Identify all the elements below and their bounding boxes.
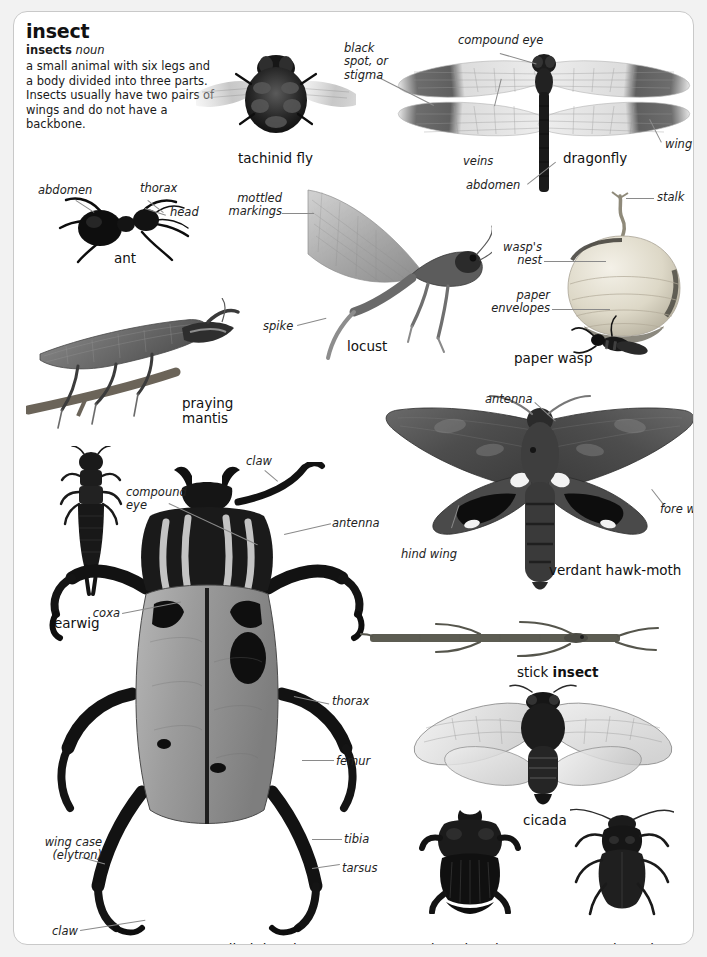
label-beetle-claw-bottom: claw: [52, 925, 78, 938]
caption-cockroach: cockroach: [590, 942, 659, 945]
definition-text: a small animal with six legs and a body …: [26, 59, 216, 132]
label-dragonfly-black-spot: black spot, or stigma: [344, 42, 388, 82]
label-moth-antenna: antenna: [485, 393, 533, 406]
label-dragonfly-wing: wing: [665, 138, 692, 151]
leader-line: [282, 213, 314, 214]
label-dragonfly-veins: veins: [463, 155, 493, 168]
dragonfly-image: [394, 36, 694, 196]
leader-line: [302, 760, 334, 761]
label-beetle-tibia: tibia: [344, 833, 369, 846]
label-beetle-femur: femur: [336, 755, 370, 768]
page-title: insect: [26, 20, 216, 42]
label-dragonfly-compound-eye: compound eye: [458, 34, 543, 47]
caption-locust: locust: [347, 339, 387, 354]
paper-wasp-image: [554, 190, 694, 360]
stick-insect-bold: insect: [553, 664, 599, 680]
inflection-form: insects: [26, 43, 72, 57]
label-ant-thorax: thorax: [140, 182, 177, 195]
label-beetle-tarsus: tarsus: [342, 862, 378, 875]
dictionary-page-card: insect insects noun a small animal with …: [13, 11, 694, 945]
label-locust-spike: spike: [263, 320, 293, 333]
caption-stick-insect: stick insect: [517, 665, 599, 680]
caption-dragonfly: dragonfly: [563, 151, 627, 166]
label-ant-abdomen: abdomen: [38, 184, 92, 197]
label-beetle-compound-eye: compound eye: [126, 486, 187, 513]
entry-block: insect insects noun a small animal with …: [26, 20, 216, 132]
inflection-line: insects noun: [26, 42, 216, 58]
caption-earwig: earwig: [54, 616, 100, 631]
label-beetle-claw-top: claw: [246, 455, 272, 468]
dung-beetle-image: [418, 808, 522, 914]
caption-verdant-hawk-moth: verdant hawk-moth: [549, 563, 681, 578]
label-wasp-nest: wasp's nest: [502, 241, 542, 268]
caption-dung-beetle: dung beetle: [426, 942, 507, 945]
stick-insect-image: [360, 616, 660, 660]
caption-praying-mantis: praying mantis: [182, 396, 233, 426]
label-wasp-stalk: stalk: [657, 191, 684, 204]
stick-insect-prefix: stick: [517, 664, 553, 680]
label-locust-mottled-markings: mottled markings: [212, 192, 282, 219]
label-moth-fore-wing: fore wing: [660, 503, 694, 516]
leader-line: [626, 198, 654, 199]
caption-ant: ant: [114, 251, 136, 266]
label-beetle-antenna: antenna: [332, 517, 380, 530]
label-beetle-thorax: thorax: [332, 695, 369, 708]
leader-line: [544, 261, 606, 262]
label-beetle-wing-case: wing case (elytron): [32, 836, 102, 863]
part-of-speech: noun: [76, 43, 105, 57]
tachinid-fly-image: [196, 48, 356, 140]
leader-line: [552, 309, 610, 310]
cockroach-image: [570, 806, 674, 916]
cicada-image: [412, 684, 674, 812]
leader-line: [312, 839, 342, 840]
caption-goliath-beetle: Goliath beetle: [210, 942, 305, 945]
label-ant-head: head: [170, 206, 199, 219]
caption-paper-wasp: paper wasp: [514, 351, 592, 366]
caption-cicada: cicada: [523, 813, 567, 828]
label-wasp-paper-envelopes: paper envelopes: [480, 289, 550, 316]
label-dragonfly-abdomen: abdomen: [466, 179, 520, 192]
caption-tachinid-fly: tachinid fly: [238, 151, 313, 166]
label-moth-hind-wing: hind wing: [399, 548, 457, 561]
